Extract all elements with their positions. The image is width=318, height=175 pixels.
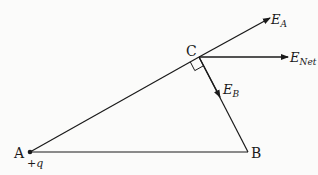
side-ac	[30, 57, 199, 152]
label-point-b: B	[251, 145, 261, 161]
vector-e-b	[199, 57, 220, 97]
label-e-net: ENet	[289, 50, 317, 67]
label-point-c: C	[186, 43, 197, 59]
label-e-b: EB	[222, 82, 240, 99]
label-e-a: EA	[270, 12, 288, 29]
label-charge-a: +q	[27, 157, 43, 170]
charge-point-a	[28, 150, 33, 155]
triangle-field-diagram: A +q B C EA ENet EB	[0, 0, 318, 175]
vector-e-a	[199, 18, 270, 57]
label-point-a: A	[13, 145, 25, 161]
